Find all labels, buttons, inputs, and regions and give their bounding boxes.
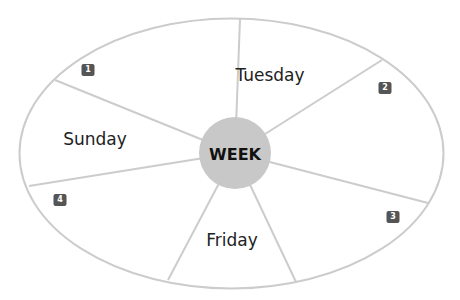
number-badge-1: 1: [82, 64, 95, 76]
segment-label-friday: Friday: [206, 230, 258, 250]
hub-label-week: WEEK: [209, 145, 261, 164]
segment-label-sunday: Sunday: [63, 129, 127, 149]
number-badge-3: 3: [387, 211, 400, 223]
number-badge-2: 2: [379, 82, 392, 94]
number-badge-4: 4: [54, 194, 67, 206]
segment-label-tuesday: Tuesday: [235, 65, 304, 85]
